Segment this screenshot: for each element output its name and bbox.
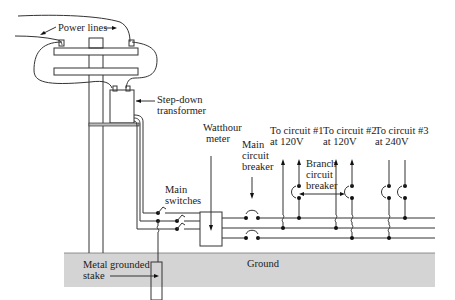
label-circuit3-2: at 240V <box>375 136 409 147</box>
step-down-transformer <box>110 90 134 123</box>
label-meter-2: meter <box>206 133 230 144</box>
label-power-lines: Power lines <box>58 22 107 33</box>
label-branch-breaker-3: breaker <box>306 180 338 191</box>
label-main-switches-2: switches <box>165 195 201 206</box>
label-transformer-2: transformer <box>157 105 206 116</box>
label-branch-breaker-2: circuit <box>306 169 333 180</box>
label-main-breaker-1: Main <box>242 139 265 150</box>
label-circuit3-1: To circuit #3 <box>375 125 429 136</box>
label-main-breaker-2: circuit <box>242 150 269 161</box>
wire-loop-left <box>34 42 112 88</box>
wire-loop-right <box>126 42 157 88</box>
label-circuit2-2: at 120V <box>323 136 357 147</box>
label-branch-breaker-1: Branch <box>306 158 337 169</box>
label-circuit1-2: at 120V <box>270 136 304 147</box>
circuit-1 <box>281 159 301 230</box>
label-meter-1: Watthour <box>203 122 242 133</box>
label-transformer-1: Step-down <box>157 94 203 105</box>
main-circuit-breaker <box>244 210 435 240</box>
label-stake-2: stake <box>83 270 105 281</box>
label-ground: Ground <box>247 258 280 269</box>
label-main-breaker-3: breaker <box>242 161 274 172</box>
label-main-switches-1: Main <box>165 184 188 195</box>
wiring-diagram: Step-down transformer Power lines Main s… <box>0 0 455 300</box>
label-stake-1: Metal grounded <box>83 259 151 270</box>
power-line-left <box>15 36 62 44</box>
bus-lines <box>222 218 435 238</box>
crossarm-lower <box>54 68 138 75</box>
crossarm-upper <box>54 48 138 55</box>
label-circuit1-1: To circuit #1 <box>270 125 324 136</box>
label-circuit2-1: To circuit #2 <box>323 125 377 136</box>
